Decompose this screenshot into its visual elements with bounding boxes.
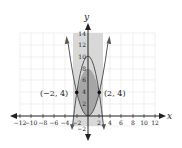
y-axis-label: y [83, 12, 90, 22]
y-tick-label: 4 [82, 88, 86, 95]
x-tick-label: 2 [97, 119, 101, 126]
x-tick-label: −4 [61, 119, 70, 126]
arrow-icon [102, 124, 107, 130]
x-tick-label: 12 [151, 119, 159, 126]
graph: −12 −10 −8 −6 −4 −2 2 4 6 8 10 12 2 4 6 … [0, 0, 182, 148]
x-tick-label: 6 [119, 119, 123, 126]
point-label-right: (2, 4) [104, 89, 126, 98]
x-tick-label: 8 [131, 119, 135, 126]
y-tick-label: 6 [82, 76, 86, 83]
x-axis-label: x [167, 111, 172, 121]
y-tick-label: 14 [78, 30, 86, 37]
x-tick-label: 10 [140, 119, 148, 126]
x-tick-label: 4 [108, 119, 112, 126]
x-tick-label: −6 [50, 119, 59, 126]
arrow-icon [107, 36, 112, 44]
y-tick-label: −2 [77, 125, 86, 132]
x-tick-label: −10 [25, 119, 38, 126]
x-axis-arrow-right-icon [159, 113, 166, 119]
x-tick-label: −8 [39, 119, 48, 126]
intersection-point [98, 91, 102, 95]
y-tick-label: 2 [82, 100, 86, 107]
intersection-point [75, 91, 79, 95]
y-axis-arrow-up-icon [85, 23, 91, 30]
y-tick-label: 12 [78, 41, 86, 48]
y-axis-arrow-down-icon [85, 134, 91, 141]
arrow-icon [65, 36, 70, 44]
y-tick-label: 10 [78, 53, 86, 60]
point-label-left: (−2, 4) [40, 89, 68, 98]
y-tick-label: 8 [82, 65, 86, 72]
